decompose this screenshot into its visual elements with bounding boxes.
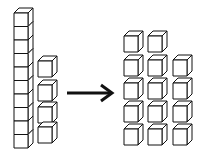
regrouping-diagram [0, 0, 204, 160]
loose-unit-cubes [38, 56, 57, 143]
regrouped-unit-cubes [124, 31, 192, 145]
ten-rod [14, 8, 33, 148]
arrow-right-icon [67, 85, 112, 101]
